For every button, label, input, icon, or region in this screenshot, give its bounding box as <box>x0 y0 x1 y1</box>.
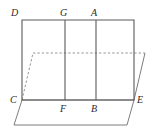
vertex-label-D: D <box>11 8 18 18</box>
vertex-label-E: E <box>137 95 143 105</box>
vertex-label-F: F <box>60 104 66 114</box>
vertex-label-A: A <box>91 8 97 18</box>
base-plane-parallelogram <box>14 100 134 125</box>
vertex-label-C: C <box>10 95 17 105</box>
hidden-edge-slant <box>22 53 33 100</box>
vertex-label-B: B <box>91 104 97 114</box>
plane-right-slant-edge <box>134 53 145 100</box>
geometry-figure: D G A C F B E <box>0 0 154 136</box>
vertex-label-G: G <box>60 8 67 18</box>
figure-canvas <box>0 0 154 136</box>
rectangle-outline <box>22 20 134 100</box>
